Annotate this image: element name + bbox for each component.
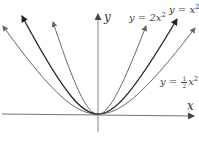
fraction-denominator: 2 bbox=[181, 83, 187, 89]
x-axis-label: x bbox=[187, 100, 194, 112]
label-two-x-squared-text: y = 2x bbox=[129, 12, 161, 23]
label-two-x-squared: y = 2x2 bbox=[129, 12, 166, 23]
label-x-squared-text: y = x bbox=[169, 4, 195, 15]
parabola-diagram: y x y = 2x2 y = x2 y = 12x2 bbox=[0, 0, 199, 144]
label-half-x-squared-prefix: y = bbox=[160, 76, 180, 87]
y-axis-label: y bbox=[104, 11, 111, 23]
curve-x-squared-right bbox=[98, 19, 177, 114]
diagram-canvas bbox=[0, 0, 199, 144]
label-half-x-squared: y = 12x2 bbox=[160, 76, 198, 89]
label-x-squared: y = x2 bbox=[169, 4, 199, 15]
label-half-x-squared-exp: 2 bbox=[194, 75, 198, 83]
fraction-one-half: 12 bbox=[181, 76, 187, 89]
label-x-squared-exp: 2 bbox=[195, 3, 199, 11]
label-two-x-squared-exp: 2 bbox=[161, 11, 165, 19]
curve-x-squared-left bbox=[22, 16, 98, 114]
curve-two-x-squared-left bbox=[53, 22, 98, 114]
